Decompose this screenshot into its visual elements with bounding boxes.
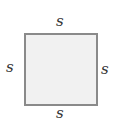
side-label-right: s bbox=[101, 62, 109, 77]
side-label-top: s bbox=[56, 14, 64, 29]
side-label-bottom: s bbox=[56, 106, 64, 121]
square-shape bbox=[24, 33, 98, 106]
side-label-left: s bbox=[6, 60, 14, 75]
